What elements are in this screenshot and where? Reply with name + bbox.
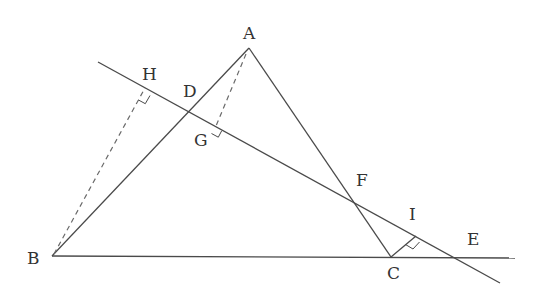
label-i: I bbox=[409, 204, 416, 224]
label-h: H bbox=[142, 64, 157, 84]
perpendicular-bh bbox=[54, 88, 145, 254]
label-g: G bbox=[194, 130, 208, 150]
perpendicular-ci bbox=[391, 236, 416, 257]
label-d: D bbox=[183, 81, 197, 101]
right-angle-mark-h bbox=[139, 96, 151, 104]
perpendicular-ag bbox=[216, 54, 246, 126]
label-e: E bbox=[467, 229, 479, 249]
label-f: F bbox=[356, 170, 368, 190]
label-b: B bbox=[27, 248, 40, 268]
label-c: C bbox=[387, 263, 400, 283]
line-bce bbox=[52, 256, 515, 258]
segment-ac bbox=[249, 48, 391, 257]
right-angle-mark-g bbox=[212, 131, 222, 137]
label-a: A bbox=[242, 23, 256, 43]
transversal-line bbox=[98, 62, 500, 283]
geometry-diagram: A B C D E F G H I bbox=[0, 0, 539, 296]
